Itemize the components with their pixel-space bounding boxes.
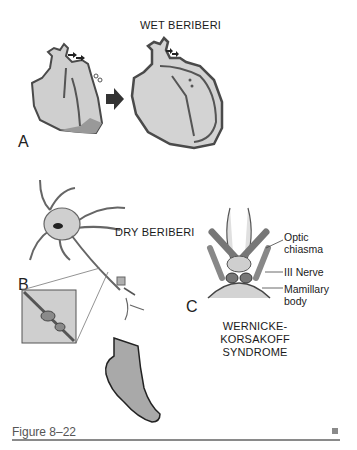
end-marker-icon (332, 428, 338, 434)
figure-caption: Figure 8–22 (12, 425, 76, 439)
panel-letter-c: C (186, 298, 198, 316)
wernicke-korsakoff-title: WERNICKE-KORSAKOFF SYNDROME (188, 320, 322, 359)
label-optic-chiasma: Optic chiasma (284, 231, 323, 255)
caption-rule (12, 439, 340, 441)
label-leader-lines (0, 0, 357, 450)
label-mamillary-body: Mamillary body (284, 283, 329, 307)
label-iii-nerve: III Nerve (284, 266, 324, 278)
